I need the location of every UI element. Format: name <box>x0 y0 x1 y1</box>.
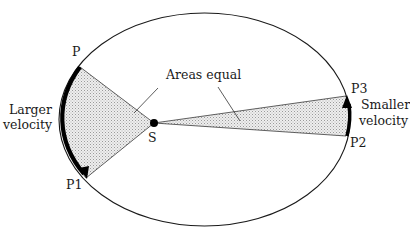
larger-velocity-label-line2: velocity <box>0 118 52 132</box>
areas-equal-label: Areas equal <box>166 68 241 82</box>
kepler-second-law-diagram: Areas equal P P1 S P3 P2 Larger velocity… <box>0 0 410 235</box>
point-p-label: P <box>72 45 80 59</box>
focus-s-label: S <box>148 131 157 145</box>
point-p2-label: P2 <box>350 136 366 150</box>
larger-velocity-label-line1: Larger <box>0 103 52 117</box>
smaller-velocity-label-line1: Smaller <box>361 98 410 112</box>
leader-line-left <box>134 88 158 113</box>
orbit-diagram-svg <box>0 0 410 235</box>
sun-focus-point <box>150 119 158 127</box>
shaded-sector-right <box>154 96 349 136</box>
smaller-velocity-label-line2: velocity <box>359 114 408 128</box>
point-p1-label: P1 <box>66 178 82 192</box>
point-p3-label: P3 <box>351 82 367 96</box>
